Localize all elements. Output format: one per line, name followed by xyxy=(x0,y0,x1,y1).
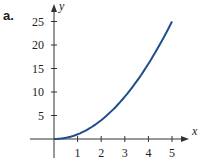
y-tick-label: 25 xyxy=(32,16,44,28)
x-tick-label: 2 xyxy=(98,147,104,159)
y-tick-label: 20 xyxy=(32,39,44,51)
y-axis-label: y xyxy=(59,0,64,12)
x-tick-label: 5 xyxy=(169,147,175,159)
y-tick-label: 5 xyxy=(38,110,44,122)
y-tick-label: 10 xyxy=(32,86,44,98)
y-axis-arrow-icon xyxy=(51,4,57,12)
x-tick-label: 1 xyxy=(75,147,81,159)
curve-y-equals-x-squared xyxy=(54,22,172,140)
chart-plot xyxy=(0,0,204,165)
y-tick-label: 15 xyxy=(32,63,44,75)
x-tick-label: 4 xyxy=(145,147,151,159)
x-axis-arrow-icon xyxy=(181,136,189,142)
x-axis-label: x xyxy=(192,125,197,137)
x-tick-label: 3 xyxy=(122,147,128,159)
